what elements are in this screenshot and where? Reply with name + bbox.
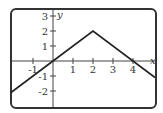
- tick-labels: -11234-2-1123: [28, 11, 136, 97]
- x-tick-label: 3: [110, 64, 116, 75]
- y-tick-label: -2: [38, 86, 48, 97]
- y-axis-label: y: [56, 9, 63, 20]
- y-tick-label: 2: [42, 26, 48, 37]
- y-tick-label: 1: [42, 41, 48, 52]
- x-tick-label: 4: [130, 64, 136, 75]
- y-tick-label: -1: [38, 71, 48, 82]
- x-tick-label: 2: [90, 64, 96, 75]
- x-tick-label: 1: [70, 64, 76, 75]
- x-axis-label: x: [150, 55, 156, 66]
- line-chart: -11234-2-1123 x y: [0, 0, 163, 113]
- axes: [12, 10, 155, 107]
- y-tick-label: 3: [42, 11, 48, 22]
